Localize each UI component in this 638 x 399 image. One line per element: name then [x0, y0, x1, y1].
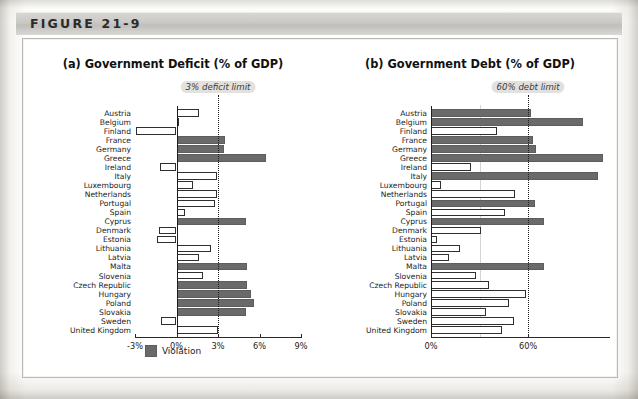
- zero-axis-line: [431, 106, 432, 337]
- country-label: Netherlands: [85, 191, 131, 199]
- country-label: Slovakia: [99, 309, 131, 317]
- x-axis-line: [431, 337, 610, 338]
- bar-ireland: [431, 163, 471, 171]
- country-label: Denmark: [392, 227, 427, 235]
- bar-luxembourg: [177, 181, 194, 189]
- bar-estonia: [157, 236, 176, 244]
- country-label: Portugal: [100, 200, 131, 208]
- country-label: Lithuania: [96, 245, 131, 253]
- country-label: Slovakia: [395, 309, 427, 317]
- bar-finland: [431, 127, 497, 135]
- x-axis-tick-label: 60%: [519, 341, 537, 351]
- bar-sweden: [431, 317, 514, 325]
- bar-germany: [177, 145, 224, 153]
- country-label: Austria: [400, 110, 427, 118]
- bar-austria: [177, 109, 199, 117]
- country-label: Estonia: [103, 236, 131, 244]
- country-label: Germany: [96, 146, 131, 154]
- bar-france: [431, 136, 533, 144]
- bar-greece: [431, 154, 603, 162]
- country-label: Estonia: [399, 236, 427, 244]
- chart-legend: Violation: [23, 345, 323, 357]
- bar-poland: [177, 299, 254, 307]
- x-axis-tick: [135, 334, 136, 339]
- bar-united-kingdom: [431, 326, 502, 334]
- bar-greece: [177, 154, 267, 162]
- country-label: Czech Republic: [73, 282, 131, 290]
- bar-belgium: [431, 118, 583, 126]
- bar-slovenia: [431, 272, 476, 280]
- panel-government-deficit: (a) Government Deficit (% of GDP) 3% def…: [23, 39, 323, 377]
- country-label: Sweden: [101, 318, 131, 326]
- country-label: Czech Republic: [369, 282, 427, 290]
- x-axis-tick: [218, 334, 219, 339]
- deficit-country-labels: AustriaBelgiumFinlandFranceGermanyGreece…: [23, 39, 131, 377]
- country-label: Ireland: [401, 164, 427, 172]
- bar-lithuania: [431, 245, 460, 253]
- bar-poland: [431, 299, 509, 307]
- bar-czech-republic: [431, 281, 489, 289]
- x-axis-tick: [177, 334, 178, 339]
- panel-government-debt: (b) Government Debt (% of GDP) 60% debt …: [323, 39, 617, 377]
- bar-germany: [431, 145, 536, 153]
- bar-lithuania: [177, 245, 212, 253]
- violation-swatch-icon: [145, 345, 157, 357]
- country-label: Latvia: [404, 254, 427, 262]
- country-label: Lithuania: [392, 245, 427, 253]
- x-axis-tick: [260, 334, 261, 339]
- bar-latvia: [177, 254, 199, 262]
- bar-latvia: [431, 254, 449, 262]
- country-label: Portugal: [396, 200, 427, 208]
- country-label: Luxembourg: [84, 182, 131, 190]
- country-label: Austria: [104, 110, 131, 118]
- country-label: Hungary: [395, 291, 427, 299]
- country-label: Belgium: [100, 119, 131, 127]
- debt-country-labels: AustriaBelgiumFinlandFranceGermanyGreece…: [323, 39, 427, 377]
- x-axis-tick: [301, 334, 302, 339]
- country-label: France: [402, 137, 427, 145]
- figure-number-label: FIGURE 21-9: [30, 16, 142, 31]
- threshold-line: [528, 95, 529, 337]
- country-label: Netherlands: [381, 191, 427, 199]
- country-label: Denmark: [96, 227, 131, 235]
- country-label: Malta: [110, 263, 131, 271]
- country-label: Hungary: [99, 291, 131, 299]
- bar-cyprus: [177, 218, 246, 226]
- bar-malta: [177, 263, 248, 271]
- country-label: Finland: [104, 128, 131, 136]
- country-label: Poland: [106, 300, 131, 308]
- country-label: Ireland: [105, 164, 131, 172]
- country-label: France: [106, 137, 131, 145]
- legend-violation-label: Violation: [162, 346, 201, 356]
- bar-czech-republic: [177, 281, 248, 289]
- x-axis-tick: [528, 334, 529, 339]
- bar-slovakia: [431, 308, 486, 316]
- bar-denmark: [431, 227, 481, 235]
- country-label: United Kingdom: [70, 327, 131, 335]
- bar-italy: [431, 172, 598, 180]
- bar-ireland: [160, 163, 177, 171]
- bar-slovenia: [177, 272, 203, 280]
- country-label: Latvia: [108, 254, 131, 262]
- bar-portugal: [177, 200, 216, 208]
- country-label: Italy: [115, 173, 131, 181]
- country-label: Cyprus: [104, 218, 131, 226]
- bar-luxembourg: [431, 181, 441, 189]
- bar-finland: [136, 127, 176, 135]
- zero-axis-line: [177, 106, 178, 337]
- bar-netherlands: [431, 190, 515, 198]
- country-label: Spain: [110, 209, 131, 217]
- bar-hungary: [431, 290, 526, 298]
- country-label: Greece: [400, 155, 427, 163]
- country-label: Malta: [406, 263, 427, 271]
- bar-netherlands: [177, 190, 217, 198]
- country-label: Italy: [411, 173, 427, 181]
- threshold-line: [218, 95, 219, 337]
- bar-spain: [431, 209, 505, 217]
- bar-united-kingdom: [177, 326, 219, 334]
- country-label: Luxembourg: [380, 182, 427, 190]
- bar-sweden: [161, 317, 176, 325]
- bar-portugal: [431, 200, 535, 208]
- x-axis-tick: [431, 334, 432, 339]
- country-label: Sweden: [397, 318, 427, 326]
